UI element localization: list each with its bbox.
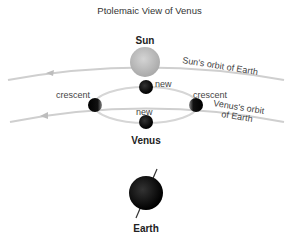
venus-new-top	[139, 80, 153, 94]
sun-label: Sun	[136, 35, 155, 46]
earth	[129, 176, 163, 210]
venus-crescent-right	[189, 98, 203, 112]
ptolemaic-diagram: Sun Sun's orbit of Earth new crescent cr…	[0, 0, 299, 244]
venus-new-bottom	[139, 115, 153, 129]
new-label-bottom: new	[136, 107, 153, 117]
new-label-top: new	[155, 79, 172, 89]
sun	[130, 47, 160, 77]
earth-label: Earth	[133, 223, 159, 234]
sun-orbit-label: Sun's orbit of Earth	[182, 55, 259, 77]
venus-label: Venus	[131, 135, 161, 146]
venus-crescent-left	[88, 98, 102, 112]
crescent-label-left: crescent	[56, 90, 91, 100]
venus-orbit-arrow-icon	[40, 112, 48, 119]
sun-orbit-arrow-icon	[46, 70, 54, 76]
